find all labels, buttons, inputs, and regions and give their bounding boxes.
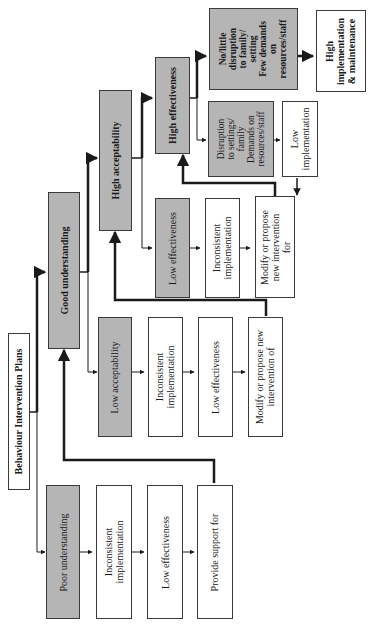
node-label: Inconsistent implementation (155, 346, 177, 409)
node-low-implementation: Low implementation (282, 101, 318, 177)
node-label: Low effectiveness (160, 516, 171, 589)
node-label: Modify or propose new intervention of (255, 330, 277, 424)
node-high-effectiveness: High effectiveness (155, 57, 190, 154)
node-behaviour-intervention-plans: Behaviour Intervention Plans (8, 333, 30, 490)
node-le-inconsistent-implementation: Inconsistent implementation (205, 198, 240, 298)
node-label: Inconsistent implementation (103, 521, 125, 584)
node-la-inconsistent-implementation: Inconsistent implementation (148, 317, 183, 437)
node-label: Behaviour Intervention Plans (14, 349, 25, 475)
node-label: High effectiveness (167, 67, 178, 144)
node-label: Provide support for (210, 513, 221, 591)
node-poor-low-effectiveness: Low effectiveness (147, 485, 183, 619)
node-la-low-effectiveness: Low effectiveness (198, 317, 233, 437)
node-la-modify-intervention: Modify or propose new intervention of (248, 317, 283, 437)
node-label: Low effectiveness (167, 212, 178, 285)
node-low-acceptability: Low acceptability (98, 317, 132, 437)
node-provide-support: Provide support for (197, 485, 233, 619)
node-label: Low acceptability (110, 341, 121, 413)
node-no-little-disruption: No/little disruption to family/ setting … (209, 8, 298, 90)
node-poor-understanding: Poor understanding (46, 485, 80, 619)
node-low-effectiveness: Low effectiveness (155, 198, 190, 298)
node-disruption-demands: Disruption to settings/ family Demands o… (208, 101, 274, 177)
node-high-implementation-maintenance: High implementation & maintenance (316, 10, 366, 92)
node-label: High implementation & maintenance (325, 17, 358, 84)
node-label: Good understanding (59, 226, 70, 314)
node-label: Poor understanding (58, 513, 69, 591)
node-label: Modify or propose new intervention for (259, 210, 292, 285)
node-label: Low effectiveness (210, 341, 221, 414)
node-label: No/little disruption to family/ setting … (219, 20, 289, 79)
node-high-acceptability: High acceptability (99, 90, 132, 231)
node-label: Disruption to settings/ family Demands o… (216, 111, 266, 166)
node-label: Low implementation (289, 108, 311, 171)
node-label: Inconsistent implementation (212, 217, 234, 280)
node-label: High acceptability (110, 121, 121, 199)
node-le-modify-intervention: Modify or propose new intervention for (255, 196, 295, 298)
node-poor-inconsistent-implementation: Inconsistent implementation (96, 485, 132, 619)
node-good-understanding: Good understanding (48, 192, 80, 349)
